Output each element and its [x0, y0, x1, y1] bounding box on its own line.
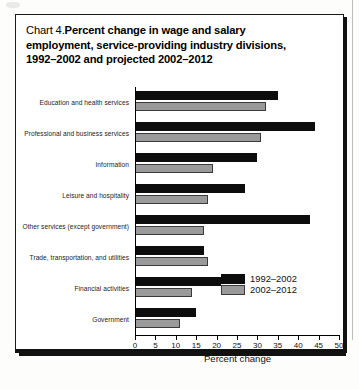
category-label: Government	[20, 304, 132, 335]
x-axis-tick	[135, 336, 136, 340]
bar-1992-2002	[135, 91, 278, 100]
x-axis-tick	[196, 336, 197, 340]
x-axis-title: Percent change	[135, 353, 340, 364]
x-axis-tick	[176, 336, 177, 340]
bar-2002-2012	[135, 257, 208, 266]
bar-group	[135, 304, 339, 335]
scan-speckle-artifact	[6, 2, 20, 8]
x-axis-tick	[257, 336, 258, 340]
chart-title-line-1: Percent change in wage and salary	[65, 24, 246, 36]
bar-group	[135, 180, 339, 211]
chart-number-label: Chart 4.	[26, 24, 65, 36]
bar-1992-2002	[135, 308, 196, 317]
bar-1992-2002	[135, 184, 245, 193]
x-axis-tick	[298, 336, 299, 340]
x-axis-tick	[319, 336, 320, 340]
frame-bottom-rule	[15, 349, 347, 353]
bar-2002-2012	[135, 288, 192, 297]
legend: 1992–2002 2002–2012	[221, 273, 331, 295]
x-axis-tick	[155, 336, 156, 340]
bar-1992-2002	[135, 153, 257, 162]
x-axis-tick	[278, 336, 279, 340]
bar-1992-2002	[135, 246, 204, 255]
bar-2002-2012	[135, 319, 180, 328]
x-axis-tick	[237, 336, 238, 340]
legend-item: 1992–2002	[221, 273, 331, 284]
bar-1992-2002	[135, 122, 315, 131]
category-label: Information	[20, 149, 132, 180]
legend-item: 2002–2012	[221, 284, 331, 295]
bar-2002-2012	[135, 133, 261, 142]
frame-right-rule	[343, 17, 347, 353]
chart-frame: Chart 4.Percent change in wage and salar…	[15, 14, 344, 353]
legend-label: 2002–2012	[250, 284, 297, 295]
category-label: Financial activities	[20, 273, 132, 304]
bar-2002-2012	[135, 195, 208, 204]
bar-group	[135, 242, 339, 273]
bar-group	[135, 149, 339, 180]
bar-2002-2012	[135, 164, 213, 173]
category-label: Education and health services	[20, 87, 132, 118]
x-axis-tick	[217, 336, 218, 340]
category-label: Other services (except government)	[20, 211, 132, 242]
chart-title: Chart 4.Percent change in wage and salar…	[26, 23, 326, 67]
chart-title-line-3: 1992–2002 and projected 2002–2012	[26, 53, 213, 65]
bar-2002-2012	[135, 226, 204, 235]
bar-group	[135, 118, 339, 149]
bar-group	[135, 87, 339, 118]
category-label: Trade, transportation, and utilities	[20, 242, 132, 273]
chart-title-line-2: employment, service-providing industry d…	[26, 39, 286, 51]
legend-label: 1992–2002	[250, 273, 297, 284]
bar-group	[135, 211, 339, 242]
y-axis-line	[135, 87, 136, 336]
category-label: Leisure and hospitality	[20, 180, 132, 211]
bar-2002-2012	[135, 102, 266, 111]
category-label: Professional and business services	[20, 118, 132, 149]
bar-1992-2002	[135, 277, 221, 286]
legend-swatch-1992-2002	[221, 274, 245, 284]
page-column-rule	[352, 0, 353, 340]
bar-1992-2002	[135, 215, 310, 224]
scan-page-background: Chart 4.Percent change in wage and salar…	[0, 0, 359, 389]
category-axis-labels: Education and health services Profession…	[20, 87, 132, 335]
legend-swatch-2002-2012	[221, 285, 245, 295]
x-axis-tick	[339, 336, 340, 340]
plot-area	[135, 87, 339, 335]
